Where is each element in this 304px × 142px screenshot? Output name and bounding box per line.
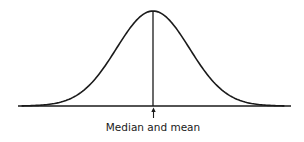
normal-distribution-diagram: Median and mean	[0, 0, 304, 142]
up-arrow-icon	[151, 108, 155, 119]
arrow-head	[151, 108, 155, 113]
median-mean-label: Median and mean	[106, 121, 200, 133]
